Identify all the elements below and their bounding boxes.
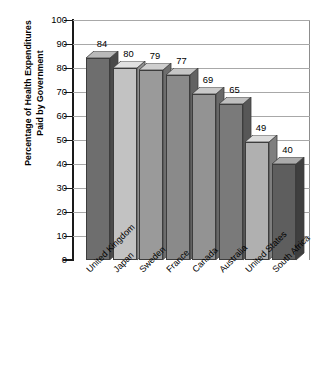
- bar-united-states: [245, 135, 269, 260]
- bar-front-face: [245, 142, 269, 260]
- y-axis-tick-label: 50: [37, 135, 67, 144]
- bar-front-face: [139, 70, 163, 260]
- bar-front-face: [166, 75, 190, 260]
- bar-value-label: 77: [162, 56, 202, 65]
- bar-value-label: 65: [215, 85, 255, 94]
- bar-australia: [219, 97, 243, 260]
- y-axis-tick-label: 80: [37, 63, 67, 72]
- bar-front-face: [192, 94, 216, 260]
- bar-value-label: 84: [82, 39, 122, 48]
- gridline: [73, 20, 310, 21]
- y-axis-tick-label: 10: [37, 231, 67, 240]
- bar-france: [166, 68, 190, 260]
- bar-canada: [192, 87, 216, 260]
- bar-value-label: 69: [188, 75, 228, 84]
- y-axis-tick-label: 0: [37, 255, 67, 264]
- y-axis-tick-label: 40: [37, 159, 67, 168]
- y-axis-tick-label: 30: [37, 183, 67, 192]
- y-axis-tick-label: 100: [37, 15, 67, 24]
- bar-value-label: 40: [268, 145, 308, 154]
- bar-front-face: [219, 104, 243, 260]
- bar-value-label: 49: [241, 123, 281, 132]
- y-axis-tick-label: 20: [37, 207, 67, 216]
- y-axis-tick-label: 90: [37, 39, 67, 48]
- bar-sweden: [139, 63, 163, 260]
- bar-united-kingdom: [86, 51, 110, 260]
- y-axis-tick-label: 70: [37, 87, 67, 96]
- y-axis-tick-label: 60: [37, 111, 67, 120]
- y-axis-title: Percentage of Health Expenditures Paid b…: [23, 0, 53, 203]
- y-axis-title-line-2: Paid by Government: [35, 0, 47, 203]
- bar-front-face: [86, 58, 110, 260]
- health-expenditure-bar-chart: Percentage of Health Expenditures Paid b…: [0, 0, 334, 365]
- y-axis-title-line-1: Percentage of Health Expenditures: [23, 0, 35, 203]
